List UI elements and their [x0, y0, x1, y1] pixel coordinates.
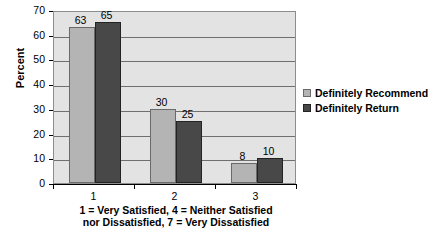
bar[interactable] [231, 163, 257, 183]
y-tick-label: 50 [5, 54, 45, 64]
bar-value-label: 30 [142, 97, 182, 108]
legend-swatch-icon [303, 104, 311, 112]
bar-chart: Percent 010203040506070 123 63653025810 … [0, 0, 432, 236]
x-tick-mark [134, 184, 135, 189]
y-tick-label: 40 [5, 79, 45, 89]
x-tick-label: 2 [155, 190, 195, 202]
bar[interactable] [69, 27, 95, 183]
y-tick-label: 70 [5, 5, 45, 15]
x-tick-mark [296, 184, 297, 189]
legend-label: Definitely Return [315, 102, 399, 114]
bar[interactable] [95, 22, 121, 183]
bar-value-label: 65 [87, 10, 127, 21]
y-tick-label: 30 [5, 104, 45, 114]
x-tick-mark [53, 184, 54, 189]
x-tick-label: 1 [74, 190, 114, 202]
x-axis-title-line-2: nor Dissatisfied, 7 = Very Dissatisfied [36, 216, 316, 228]
bar[interactable] [176, 121, 202, 183]
x-tick-label: 3 [236, 190, 276, 202]
legend: Definitely Recommend Definitely Return [303, 86, 428, 116]
y-tick-label: 20 [5, 129, 45, 139]
legend-swatch-icon [303, 89, 311, 97]
legend-item-definitely-return[interactable]: Definitely Return [303, 101, 428, 114]
x-axis-title: 1 = Very Satisfied, 4 = Neither Satisfie… [36, 204, 316, 228]
bar-value-label: 25 [168, 109, 208, 120]
legend-item-definitely-recommend[interactable]: Definitely Recommend [303, 86, 428, 99]
x-axis-line [53, 184, 297, 185]
y-tick-label: 0 [5, 178, 45, 188]
x-tick-mark [215, 184, 216, 189]
y-tick-label: 60 [5, 30, 45, 40]
x-axis-title-line-1: 1 = Very Satisfied, 4 = Neither Satisfie… [36, 204, 316, 216]
legend-label: Definitely Recommend [315, 87, 428, 99]
bar-value-label: 10 [249, 146, 289, 157]
y-tick-label: 10 [5, 153, 45, 163]
